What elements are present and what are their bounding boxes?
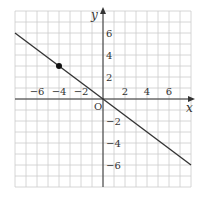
- x-tick-label: 6: [166, 86, 172, 97]
- x-tick-label: −4: [52, 86, 67, 97]
- data-points: [56, 63, 62, 69]
- axes: [15, 7, 195, 187]
- x-axis-label: x: [186, 101, 193, 115]
- x-tick-label: −6: [30, 86, 45, 97]
- x-tick-label: −2: [74, 86, 89, 97]
- y-tick-label: −4: [106, 138, 121, 149]
- origin-label: O: [94, 101, 102, 112]
- y-tick-label: 2: [106, 72, 112, 83]
- y-tick-label: −6: [106, 160, 121, 171]
- y-tick-label: 6: [106, 28, 112, 39]
- y-axis-label: y: [90, 8, 98, 22]
- data-point: [56, 63, 62, 69]
- x-tick-label: 2: [122, 86, 128, 97]
- y-axis-arrow-icon: [100, 7, 106, 14]
- y-tick-label: −2: [106, 116, 121, 127]
- x-tick-label: 4: [144, 86, 150, 97]
- coordinate-plane: −6−4−2246642−2−4−6 x y O: [0, 0, 200, 208]
- y-tick-label: 4: [106, 50, 112, 61]
